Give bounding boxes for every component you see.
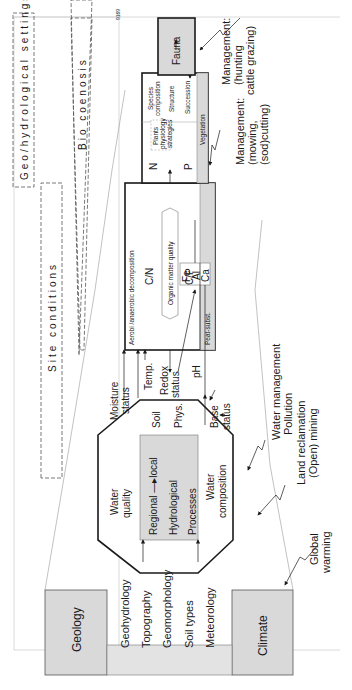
svg-text:Ca: Ca bbox=[200, 269, 211, 282]
svg-text:composition: composition bbox=[217, 465, 228, 518]
svg-text:Base: Base bbox=[209, 405, 220, 428]
driver-soil-types: Soil types bbox=[183, 600, 195, 648]
svg-text:Moisture: Moisture bbox=[109, 381, 120, 420]
fauna-label: Fauna bbox=[171, 36, 182, 65]
svg-text:status: status bbox=[221, 403, 232, 430]
svg-text:(sod)cutting): (sod)cutting) bbox=[258, 104, 270, 165]
svg-text:Hydrological: Hydrological bbox=[168, 480, 179, 535]
svg-text:(mowing,: (mowing, bbox=[246, 120, 258, 165]
svg-text:Land reclamation: Land reclamation bbox=[295, 401, 307, 485]
svg-text:Organic matter quality: Organic matter quality bbox=[167, 241, 175, 305]
svg-text:Aerobi /anaerobic decompositio: Aerobi /anaerobic decomposition bbox=[128, 250, 136, 345]
driver-geomorphology: Geomorphology bbox=[161, 569, 173, 648]
svg-text:cattle grazing): cattle grazing) bbox=[244, 26, 256, 95]
svg-text:Structure: Structure bbox=[168, 85, 175, 112]
svg-text:Temp.: Temp. bbox=[143, 363, 154, 390]
diagram-svg: Geo/hydrological settings Site condition… bbox=[0, 0, 352, 690]
svg-text:Management:: Management: bbox=[234, 98, 246, 165]
svg-text:status: status bbox=[120, 387, 131, 414]
svg-text:Regional —▸local: Regional —▸local bbox=[148, 457, 159, 535]
band-bio-label: Bio coenosis bbox=[77, 57, 88, 150]
driver-topography: Topography bbox=[140, 590, 152, 648]
svg-text:Redox: Redox bbox=[159, 366, 170, 395]
svg-text:Phys.: Phys. bbox=[173, 403, 184, 428]
svg-text:Processes: Processes bbox=[187, 488, 198, 535]
svg-text:(hunting: (hunting bbox=[232, 45, 244, 85]
driver-geohydrology: Geohydrology bbox=[119, 579, 131, 648]
svg-text:pH: pH bbox=[191, 365, 202, 378]
climate-label: Climate bbox=[256, 615, 270, 656]
svg-text:quality: quality bbox=[121, 489, 132, 518]
svg-text:Water: Water bbox=[205, 473, 216, 500]
svg-text:Global: Global bbox=[308, 533, 320, 565]
diagram-canvas: Geo/hydrological settings Site condition… bbox=[0, 0, 352, 690]
svg-text:Pollution: Pollution bbox=[282, 393, 294, 435]
svg-text:status: status bbox=[170, 371, 181, 398]
svg-text:C/P: C/P bbox=[184, 268, 195, 285]
svg-text:warming: warming bbox=[320, 531, 332, 574]
band-site-label: Site conditions bbox=[47, 262, 58, 372]
figure-id: 9169 bbox=[115, 9, 121, 20]
svg-text:Management:: Management: bbox=[220, 18, 232, 85]
svg-text:N: N bbox=[148, 163, 159, 170]
svg-text:composition: composition bbox=[154, 81, 162, 116]
svg-text:Peat-subst.: Peat-subst. bbox=[204, 312, 211, 345]
driver-meteorology: Meteorology bbox=[204, 587, 216, 648]
svg-text:Vegetation: Vegetation bbox=[199, 114, 207, 145]
svg-text:Water: Water bbox=[109, 488, 120, 515]
band-geo-label: Geo/hydrological settings bbox=[19, 0, 30, 180]
svg-text:Water management: Water management bbox=[270, 344, 282, 440]
svg-text:(Open) mining: (Open) mining bbox=[307, 408, 319, 478]
svg-text:strategies: strategies bbox=[166, 119, 174, 148]
svg-text:Plants: Plants bbox=[152, 126, 159, 145]
site-conditions-wedge bbox=[71, 0, 92, 355]
svg-text:Soil: Soil bbox=[151, 411, 162, 428]
geo-climate-strip bbox=[107, 645, 232, 675]
geology-label: Geology bbox=[70, 607, 84, 652]
svg-text:Succession: Succession bbox=[184, 80, 191, 114]
svg-text:C/N: C/N bbox=[144, 268, 155, 285]
svg-text:P: P bbox=[183, 163, 194, 170]
